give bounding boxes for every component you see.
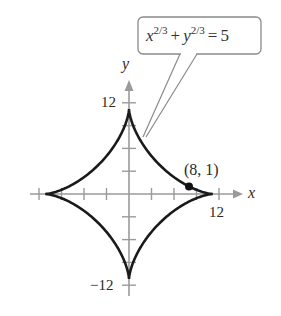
point-label: (8, 1)	[184, 162, 219, 178]
x-axis-label: x	[248, 185, 255, 201]
equation-label: x2/3+y2/3=5	[146, 24, 229, 46]
y-axis-label: y	[122, 56, 129, 72]
point-8-1	[185, 182, 193, 190]
x-axis-arrow-icon	[233, 190, 243, 199]
y-axis-arrow-icon	[125, 80, 134, 91]
y-tick-label-neg12: −12	[90, 278, 113, 293]
x-tick-label-12: 12	[209, 205, 224, 220]
y-tick-label-12: 12	[101, 95, 116, 110]
astroid-plot	[0, 0, 281, 316]
